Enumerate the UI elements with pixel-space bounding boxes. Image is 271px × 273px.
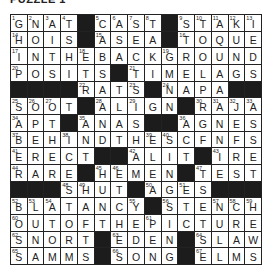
grid-cell[interactable]: 47T bbox=[195, 165, 211, 181]
grid-cell[interactable]: C bbox=[178, 215, 194, 231]
grid-cell[interactable]: E bbox=[245, 148, 261, 164]
grid-cell[interactable]: G bbox=[162, 248, 178, 264]
grid-cell[interactable]: 62S bbox=[11, 232, 27, 248]
grid-cell[interactable]: 9S bbox=[178, 15, 194, 31]
grid-cell[interactable]: I bbox=[44, 32, 60, 48]
grid-cell[interactable]: 33A bbox=[245, 98, 261, 114]
grid-cell[interactable]: O bbox=[128, 248, 144, 264]
grid-cell[interactable]: N bbox=[28, 232, 44, 248]
grid-cell[interactable]: G bbox=[195, 115, 211, 131]
grid-cell[interactable]: I bbox=[145, 65, 161, 81]
grid-cell[interactable]: 55Y bbox=[128, 198, 144, 214]
grid-cell[interactable]: T bbox=[178, 148, 194, 164]
grid-cell[interactable]: A bbox=[28, 165, 44, 181]
grid-cell[interactable]: S bbox=[245, 65, 261, 81]
grid-cell[interactable]: 26O bbox=[28, 98, 44, 114]
grid-cell[interactable]: T bbox=[195, 215, 211, 231]
grid-cell[interactable]: 23S bbox=[128, 82, 144, 98]
grid-cell[interactable]: D bbox=[245, 48, 261, 64]
grid-cell[interactable]: N bbox=[145, 248, 161, 264]
grid-cell[interactable]: 22R bbox=[78, 82, 94, 98]
grid-cell[interactable]: A bbox=[28, 248, 44, 264]
grid-cell[interactable]: T bbox=[78, 65, 94, 81]
grid-cell[interactable]: P bbox=[28, 115, 44, 131]
grid-cell[interactable]: 18E bbox=[78, 48, 94, 64]
grid-cell[interactable]: A bbox=[111, 48, 127, 64]
grid-cell[interactable]: 43I bbox=[212, 148, 228, 164]
grid-cell[interactable]: T bbox=[111, 182, 127, 198]
grid-cell[interactable]: U bbox=[212, 48, 228, 64]
grid-cell[interactable]: E bbox=[44, 148, 60, 164]
grid-cell[interactable]: T bbox=[44, 48, 60, 64]
grid-cell[interactable]: 50A bbox=[145, 182, 161, 198]
grid-cell[interactable]: 64S bbox=[195, 232, 211, 248]
grid-cell[interactable]: 59H bbox=[245, 198, 261, 214]
grid-cell[interactable]: 28A bbox=[95, 98, 111, 114]
grid-cell[interactable]: 21T bbox=[128, 65, 144, 81]
grid-cell[interactable]: S bbox=[78, 248, 94, 264]
grid-cell[interactable]: P bbox=[195, 82, 211, 98]
grid-cell[interactable]: N bbox=[162, 165, 178, 181]
grid-cell[interactable]: S bbox=[95, 65, 111, 81]
grid-cell[interactable]: E bbox=[145, 165, 161, 181]
grid-cell[interactable]: 51E bbox=[178, 182, 194, 198]
grid-cell[interactable]: 1G bbox=[11, 15, 27, 31]
grid-cell[interactable]: S bbox=[61, 32, 77, 48]
grid-cell[interactable]: T bbox=[178, 198, 194, 214]
grid-cell[interactable]: 16T bbox=[178, 32, 194, 48]
grid-cell[interactable]: 36A bbox=[178, 115, 194, 131]
grid-cell[interactable]: T bbox=[61, 198, 77, 214]
grid-cell[interactable]: U bbox=[28, 215, 44, 231]
grid-cell[interactable]: S bbox=[111, 32, 127, 48]
grid-cell[interactable]: G bbox=[229, 65, 245, 81]
grid-cell[interactable]: 58C bbox=[229, 198, 245, 214]
grid-cell[interactable]: E bbox=[61, 165, 77, 181]
grid-cell[interactable]: 44R bbox=[11, 165, 27, 181]
grid-cell[interactable]: H bbox=[111, 215, 127, 231]
grid-cell[interactable]: T bbox=[61, 98, 77, 114]
grid-cell[interactable]: G bbox=[145, 98, 161, 114]
grid-cell[interactable]: Q bbox=[212, 32, 228, 48]
grid-cell[interactable]: 37B bbox=[11, 132, 27, 148]
grid-cell[interactable]: A bbox=[95, 82, 111, 98]
grid-cell[interactable]: O bbox=[44, 232, 60, 248]
grid-cell[interactable]: L bbox=[111, 98, 127, 114]
grid-cell[interactable]: U bbox=[95, 182, 111, 198]
grid-cell[interactable]: U bbox=[212, 215, 228, 231]
grid-cell[interactable]: T bbox=[245, 165, 261, 181]
grid-cell[interactable]: 10T bbox=[195, 15, 211, 31]
grid-cell[interactable]: E bbox=[212, 165, 228, 181]
grid-cell[interactable]: I bbox=[61, 65, 77, 81]
grid-cell[interactable]: S bbox=[245, 115, 261, 131]
grid-cell[interactable]: T bbox=[78, 232, 94, 248]
grid-cell[interactable]: G bbox=[162, 182, 178, 198]
grid-cell[interactable]: E bbox=[128, 32, 144, 48]
grid-cell[interactable]: 46E bbox=[111, 165, 127, 181]
grid-cell[interactable]: A bbox=[229, 232, 245, 248]
grid-cell[interactable]: 52B bbox=[11, 198, 27, 214]
grid-cell[interactable]: 7S bbox=[128, 15, 144, 31]
grid-cell[interactable]: M bbox=[44, 248, 60, 264]
grid-cell[interactable]: S bbox=[128, 115, 144, 131]
grid-cell[interactable]: E bbox=[28, 132, 44, 148]
grid-cell[interactable]: R bbox=[28, 148, 44, 164]
grid-cell[interactable]: A bbox=[111, 115, 127, 131]
grid-cell[interactable]: 25S bbox=[11, 98, 27, 114]
grid-cell[interactable]: T bbox=[111, 82, 127, 98]
grid-cell[interactable]: 39E bbox=[145, 132, 161, 148]
grid-cell[interactable]: H bbox=[61, 48, 77, 64]
grid-cell[interactable]: E bbox=[245, 215, 261, 231]
grid-cell[interactable]: I bbox=[162, 215, 178, 231]
grid-cell[interactable]: 49H bbox=[78, 182, 94, 198]
grid-cell[interactable]: O bbox=[61, 215, 77, 231]
grid-cell[interactable]: R bbox=[61, 232, 77, 248]
grid-cell[interactable]: 5C bbox=[95, 15, 111, 31]
grid-cell[interactable]: 48S bbox=[61, 182, 77, 198]
grid-cell[interactable]: 41E bbox=[11, 148, 27, 164]
grid-cell[interactable]: O bbox=[195, 48, 211, 64]
grid-cell[interactable]: 2N bbox=[28, 15, 44, 31]
grid-cell[interactable]: T bbox=[44, 215, 60, 231]
grid-cell[interactable]: T bbox=[111, 132, 127, 148]
grid-cell[interactable]: 32J bbox=[229, 98, 245, 114]
grid-cell[interactable]: 15A bbox=[95, 32, 111, 48]
